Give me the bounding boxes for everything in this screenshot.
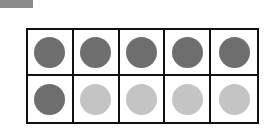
frame-cell xyxy=(211,30,257,76)
empty-counter-icon xyxy=(80,84,111,115)
empty-counter-icon xyxy=(219,84,250,115)
frame-cell xyxy=(120,30,166,76)
frame-cell xyxy=(28,76,74,122)
filled-counter-icon xyxy=(80,37,111,68)
filled-counter-icon xyxy=(172,37,203,68)
frame-cell xyxy=(211,76,257,122)
frame-cell xyxy=(165,76,211,122)
empty-counter-icon xyxy=(126,84,157,115)
frame-cell xyxy=(120,76,166,122)
filled-counter-icon xyxy=(34,84,65,115)
ten-frame xyxy=(26,28,259,124)
frame-cell xyxy=(74,76,120,122)
frame-cell xyxy=(74,30,120,76)
corner-tag xyxy=(0,0,33,8)
filled-counter-icon xyxy=(34,37,65,68)
filled-counter-icon xyxy=(219,37,250,68)
empty-counter-icon xyxy=(172,84,203,115)
frame-cell xyxy=(165,30,211,76)
filled-counter-icon xyxy=(126,37,157,68)
frame-cell xyxy=(28,30,74,76)
